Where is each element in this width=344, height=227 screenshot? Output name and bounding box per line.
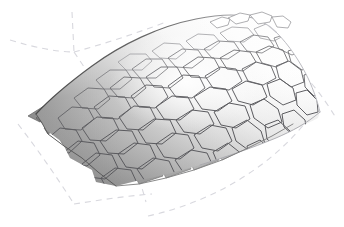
gridshell-illustration: [0, 0, 344, 227]
render-canvas: Grayscale 3D render of a curved hexagona…: [0, 0, 344, 227]
